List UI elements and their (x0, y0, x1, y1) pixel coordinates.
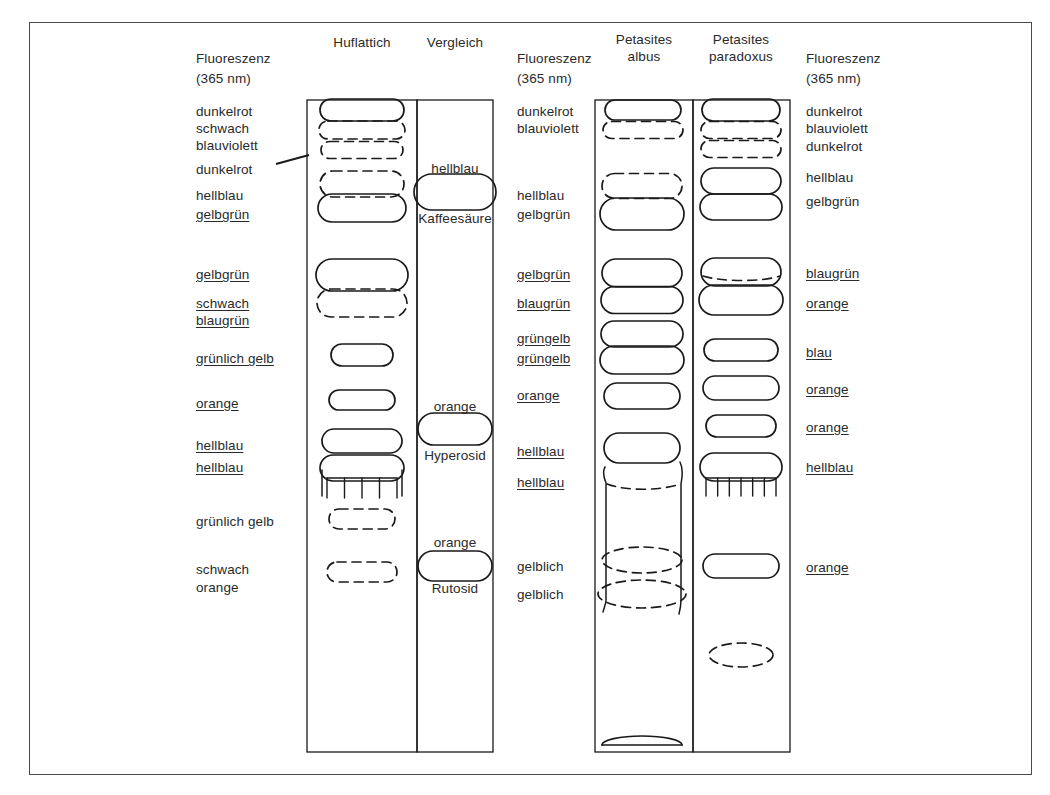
mid-label-m3: hellblau (517, 187, 564, 204)
mid-label-m2: blauviolett (517, 120, 579, 137)
band-label-text: orange (806, 560, 849, 575)
right-label-r12: orange (806, 559, 849, 576)
mid-label-m5: gelbgrün (517, 266, 570, 283)
band-label-text: hellblau (517, 444, 564, 459)
left-label-l13: hellblau (196, 459, 243, 476)
band-label-text: grünlich gelb (196, 351, 274, 366)
band-label-text: hellblau (806, 170, 853, 185)
band-label-text: schwach (196, 121, 249, 136)
lane-header-petasites-albus-line2: albus (595, 48, 693, 65)
left-label-l9: blaugrün (196, 312, 249, 329)
reference-label-ref2-below: Hyperosid (395, 447, 515, 464)
right-label-r4: hellblau (806, 169, 853, 186)
band-label-text: grünlich gelb (196, 514, 274, 529)
axis-caption-right-line2: (365 nm) (806, 70, 861, 87)
band-label-text: hellblau (196, 460, 243, 475)
right-label-r2: blauviolett (806, 120, 868, 137)
right-label-r6: blaugrün (806, 265, 859, 282)
band-label-text: gelbgrün (517, 207, 570, 222)
band-label-text: blaugrün (517, 296, 570, 311)
left-label-l14: grünlich gelb (196, 513, 274, 530)
reference-label-ref3-below: Rutosid (395, 580, 515, 597)
band-label-text: hellblau (806, 460, 853, 475)
right-label-r11: hellblau (806, 459, 853, 476)
band-label-text: orange (806, 296, 849, 311)
left-label-l3: blauviolett (196, 137, 258, 154)
band-label-text: gelbgrün (196, 207, 249, 222)
right-label-r3: dunkelrot (806, 138, 862, 155)
band-label-text: dunkelrot (196, 162, 252, 177)
right-label-r10: orange (806, 419, 849, 436)
band-label-text: hellblau (196, 438, 243, 453)
band-label-text: blauviolett (806, 121, 868, 136)
band-label-text: blauviolett (517, 121, 579, 136)
band-label-text: dunkelrot (196, 104, 252, 119)
right-label-r9: orange (806, 381, 849, 398)
band-label-text: orange (196, 396, 239, 411)
left-label-l8: schwach (196, 295, 249, 312)
band-label-text: gelblich (517, 559, 564, 574)
right-label-r1: dunkelrot (806, 103, 862, 120)
left-label-l15: schwach (196, 561, 249, 578)
axis-caption-left-line2: (365 nm) (196, 70, 251, 87)
axis-caption-right-line1: Fluoreszenz (806, 50, 881, 67)
left-label-l5: hellblau (196, 187, 243, 204)
left-label-l4: dunkelrot (196, 161, 252, 178)
left-label-l10: grünlich gelb (196, 350, 274, 367)
band-label-text: blaugrün (196, 313, 249, 328)
mid-label-m6: blaugrün (517, 295, 570, 312)
band-label-text: orange (196, 580, 239, 595)
mid-label-m10: hellblau (517, 443, 564, 460)
band-label-text: gelblich (517, 587, 564, 602)
band-label-text: orange (806, 420, 849, 435)
axis-caption-left-line1: Fluoreszenz (196, 50, 271, 67)
tlc-figure: Huflattich Vergleich Petasites albus Pet… (0, 0, 1050, 795)
band-label-text: blau (806, 345, 832, 360)
reference-label-ref2-above: orange (395, 398, 515, 415)
band-label-text: gelbgrün (196, 267, 249, 282)
band-label-text: dunkelrot (806, 104, 862, 119)
left-label-l6: gelbgrün (196, 206, 249, 223)
mid-label-m8: grüngelb (517, 350, 570, 367)
band-label-text: blaugrün (806, 266, 859, 281)
band-label-text: gelbgrün (806, 194, 859, 209)
axis-caption-mid-line2: (365 nm) (517, 70, 572, 87)
band-label-text: hellblau (517, 475, 564, 490)
band-label-text: hellblau (517, 188, 564, 203)
mid-label-m1: dunkelrot (517, 103, 573, 120)
lane-header-vergleich: Vergleich (409, 34, 501, 51)
lane-header-petasites-paradoxus-line2: paradoxus (685, 48, 797, 65)
right-label-r5: gelbgrün (806, 193, 859, 210)
band-label-text: orange (517, 388, 560, 403)
left-label-l7: gelbgrün (196, 266, 249, 283)
mid-label-m9: orange (517, 387, 560, 404)
mid-label-m13: gelblich (517, 586, 564, 603)
band-label-text: grüngelb (517, 331, 570, 346)
band-label-text: orange (806, 382, 849, 397)
left-label-l11: orange (196, 395, 239, 412)
reference-label-ref1-below: Kaffeesäure (395, 210, 515, 227)
band-label-text: gelbgrün (517, 267, 570, 282)
band-label-text: schwach (196, 296, 249, 311)
band-label-text: hellblau (196, 188, 243, 203)
mid-label-m7: grüngelb (517, 330, 570, 347)
band-label-text: blauviolett (196, 138, 258, 153)
mid-label-m11: hellblau (517, 474, 564, 491)
left-label-l12: hellblau (196, 437, 243, 454)
reference-label-ref3-above: orange (395, 534, 515, 551)
mid-label-m4: gelbgrün (517, 206, 570, 223)
lane-header-huflattich: Huflattich (307, 34, 417, 51)
axis-caption-mid-line1: Fluoreszenz (517, 50, 592, 67)
lane-header-petasites-albus-line1: Petasites (595, 31, 693, 48)
mid-label-m12: gelblich (517, 558, 564, 575)
band-label-text: schwach (196, 562, 249, 577)
band-label-text: dunkelrot (517, 104, 573, 119)
lane-header-petasites-paradoxus-line1: Petasites (685, 31, 797, 48)
reference-label-ref1-above: hellblau (395, 160, 515, 177)
left-label-l2: schwach (196, 120, 249, 137)
band-label-text: grüngelb (517, 351, 570, 366)
right-label-r8: blau (806, 344, 832, 361)
band-label-text: dunkelrot (806, 139, 862, 154)
left-label-l16: orange (196, 579, 239, 596)
right-label-r7: orange (806, 295, 849, 312)
